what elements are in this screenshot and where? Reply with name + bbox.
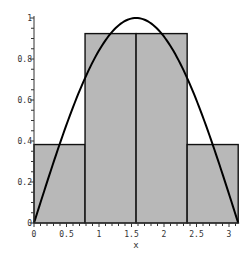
y-tick-label: 0.4 [18,137,33,146]
x-tick-label: 2.5 [189,230,204,239]
y-tick-label: 0.6 [18,96,33,105]
y-tick-label: 1 [27,14,32,23]
y-tick-label: 0.2 [18,178,33,187]
x-tick-label: 2 [162,230,167,239]
x-tick-label: 3 [227,230,232,239]
x-tick-label: 0 [32,230,37,239]
y-tick-label: 0 [27,219,32,228]
bar-1 [34,145,85,223]
bar-4 [187,145,238,223]
x-tick-label: 0.5 [59,230,74,239]
x-tick-label: 1.5 [124,230,139,239]
y-tick-label: 0.8 [18,55,33,64]
riemann-sum-chart: 00.511.522.5300.20.40.60.81 x [0,0,248,267]
x-axis-label: x [133,240,139,250]
x-tick-label: 1 [97,230,102,239]
